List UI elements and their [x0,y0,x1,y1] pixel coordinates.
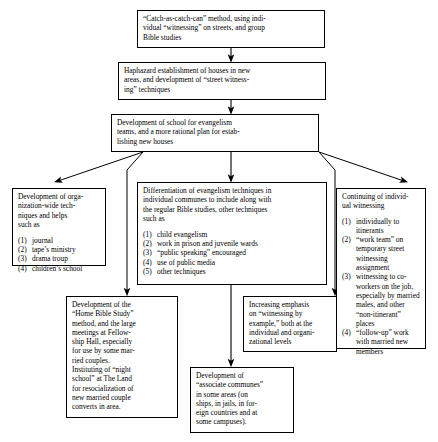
list-text: witnessing to co-workers on the job, esp… [356,272,421,328]
list-text: journal [32,236,101,245]
node-haphazard-establishment: Haphazard establishment of houses in new… [118,62,326,100]
node-increasing-emphasis: Increasing emphasis on “witnessing by ex… [243,296,337,352]
list-number: (1) [143,230,157,239]
list-number: (4) [18,264,32,273]
node-line: method, and the large [72,319,173,328]
list-number: (1) [342,217,356,226]
node-line: ual witnessing [342,201,421,210]
node-line: nization-wide tech- [18,201,101,210]
node-school-for-evangelism: Development of school for evangelism tea… [111,114,319,152]
node-line: niques and helps [18,211,101,220]
node-line: Development of the [72,300,173,309]
node-line: ried couples. [72,356,173,365]
list-text: “work team” on temporary street witnessi… [356,235,421,272]
list-item: (2) work in prison and juvenile wards [143,239,322,248]
list-text: tape’s ministry [32,245,101,254]
list-item: (2) tape’s ministry [18,245,101,254]
node-line: zational levels [249,337,332,346]
list-number: (4) [342,328,356,337]
node-line: Development of [196,371,289,380]
node-line: such as [143,214,322,223]
node-line: some campuses). [196,417,289,426]
node-line: “Home Bible Study” [72,309,173,318]
node-line: Development of school for evangelism [117,118,314,127]
node-line: individual and organi- [249,328,332,337]
list-text: individually to itinerants [356,217,421,236]
list-text: “follow-up” work with married new member… [356,328,421,356]
node-line: Differentiation of evangelism techniques… [143,186,322,195]
list-item: (1) child evangelism [143,230,322,239]
node-line: meetings at Fellow- [72,328,173,337]
node-line: for use by some mar- [72,346,173,355]
list-text: work in prison and juvenile wards [157,239,322,248]
list-number: (2) [143,239,157,248]
node-line: Continuing of individ- [342,192,421,201]
list-text: child evangelism [157,230,322,239]
node-line: Instituting of “night [72,365,173,374]
node-line: the regular Bible studies, other techniq… [143,205,322,214]
node-line: Haphazard establishment of houses in new [124,66,321,75]
org-wide-list: (1) journal (2) tape’s ministry (3) dram… [18,236,101,274]
continuing-list: (1) individually to itinerants (2) “work… [342,217,421,356]
node-differentiation-of-techniques: Differentiation of evangelism techniques… [137,182,327,285]
node-line: new married couple [72,393,173,402]
differentiation-list: (1) child evangelism (2) work in prison … [143,230,322,277]
edge-school-to-orgwide [58,152,143,181]
list-text: children’s school [32,264,101,273]
node-line: in some areas (on [196,390,289,399]
node-line: lishing new houses [117,137,314,146]
node-associate-communes: Development of “associate communes” in s… [190,367,294,433]
list-item: (1) journal [18,236,101,245]
node-line: teams, and a more rational plan for esta… [117,127,314,136]
list-item: (4) “follow-up” work with married new me… [342,328,421,356]
flowchart-diagram: “Catch-as-catch-can” method, using indi-… [0,0,438,442]
list-item: (4) children’s school [18,264,101,273]
node-line: Bible studies [143,33,320,42]
node-line: such as [18,220,101,229]
node-line: converts in area. [72,402,173,411]
list-number: (2) [342,235,356,244]
node-line: “associate communes” [196,380,289,389]
list-number: (3) [342,272,356,281]
node-line: example,” both at the [249,319,332,328]
list-item: (2) “work team” on temporary street witn… [342,235,421,272]
list-item: (1) individually to itinerants [342,217,421,236]
node-line: ship Hall, especially [72,337,173,346]
list-item: (3) witnessing to co-workers on the job,… [342,272,421,328]
list-item: (4) use of public media [143,258,322,267]
list-item: (3) drama troup [18,254,101,263]
node-line: on “witnessing by [249,309,332,318]
node-continuing-individual-witnessing: Continuing of individ- ual witnessing (1… [336,188,426,349]
list-text: drama troup [32,254,101,263]
list-number: (1) [18,236,32,245]
node-line: “Catch-as-catch-can” method, using indi- [143,14,320,23]
node-line: areas, and development of “street witnes… [124,75,321,84]
list-number: (4) [143,258,157,267]
list-number: (3) [18,254,32,263]
list-text: use of public media [157,258,322,267]
node-line: eign countries and at [196,408,289,417]
node-home-bible-study: Development of the “Home Bible Study” me… [66,296,178,418]
edge-school-to-continuing [319,152,404,181]
list-text: other techniques [157,267,322,276]
node-line: Increasing emphasis [249,300,332,309]
node-line: school” at The Land [72,374,173,383]
node-line: for resocialization of [72,384,173,393]
node-catch-as-catch-can: “Catch-as-catch-can” method, using indi-… [137,10,325,48]
list-text: “public speaking” encouraged [157,248,322,257]
node-line: ships, in jails, in for- [196,399,289,408]
list-item: (3) “public speaking” encouraged [143,248,322,257]
node-organization-wide-techniques: Development of orga- nization-wide tech-… [12,188,106,266]
list-number: (5) [143,267,157,276]
node-line: Development of orga- [18,192,101,201]
node-line: individual communes to include along wit… [143,195,322,204]
node-line: vidual “witnessing” on streets, and grou… [143,23,320,32]
list-number: (3) [143,248,157,257]
list-number: (2) [18,245,32,254]
list-item: (5) other techniques [143,267,322,276]
node-line: ing” techniques [124,85,321,94]
